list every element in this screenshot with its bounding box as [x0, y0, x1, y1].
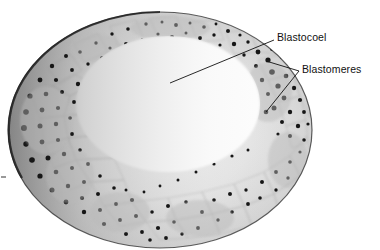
label-blastocoel: Blastocoel [277, 31, 326, 43]
plate-edge-tick [1, 176, 6, 178]
blastula-micrograph-figure: Blastocoel Blastomeres [0, 0, 380, 250]
label-blastomeres: Blastomeres [302, 63, 361, 75]
